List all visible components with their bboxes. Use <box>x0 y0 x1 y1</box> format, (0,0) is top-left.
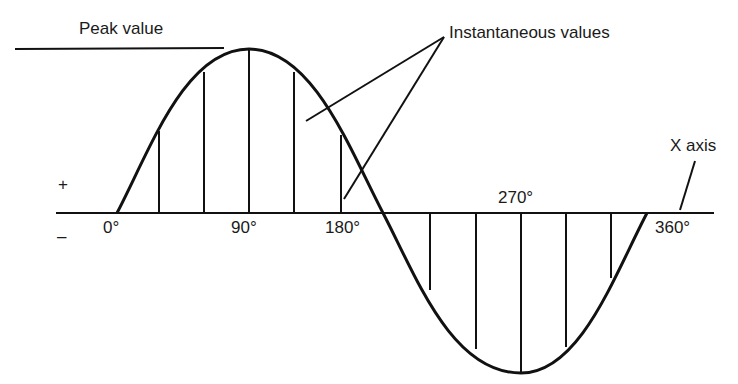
sine-curve <box>117 49 647 373</box>
instantaneous-lines-positive <box>159 49 341 213</box>
deg-360-label: 360° <box>655 218 690 238</box>
instantaneous-lines-negative <box>430 213 611 373</box>
sine-wave-diagram <box>0 0 738 384</box>
peak-value-line <box>15 48 224 49</box>
instantaneous-leader-lines <box>306 37 444 199</box>
deg-0-label: 0° <box>103 218 119 238</box>
minus-sign: – <box>57 227 66 247</box>
x-axis-label: X axis <box>670 136 716 156</box>
deg-270-label: 270° <box>498 188 533 208</box>
deg-180-label: 180° <box>325 218 360 238</box>
peak-value-label: Peak value <box>79 19 163 39</box>
plus-sign: + <box>58 175 68 195</box>
x-axis-leader-line <box>680 161 695 210</box>
instantaneous-values-label: Instantaneous values <box>449 23 610 43</box>
deg-90-label: 90° <box>231 218 257 238</box>
